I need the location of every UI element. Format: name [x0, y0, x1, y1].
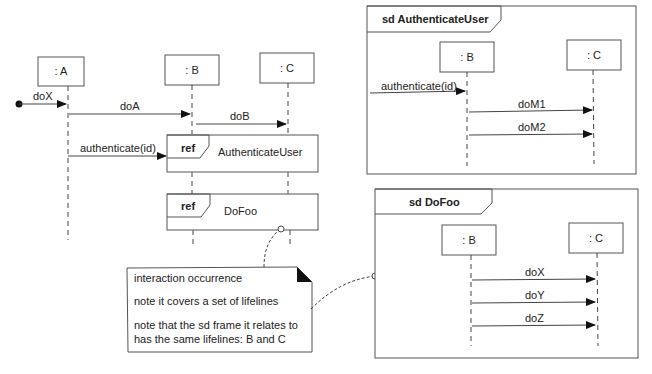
frame-sd-authenticate-user[interactable]: sd AuthenticateUser : B : C authenticate… [367, 6, 636, 174]
lifeline-b-label: : B [185, 64, 198, 76]
message-dob[interactable]: doB [196, 110, 286, 124]
ref-keyword: ref [181, 200, 195, 212]
frame1-message-authenticate-label: authenticate(id) [381, 80, 457, 92]
frame-authenticate-user-title: sd AuthenticateUser [382, 13, 489, 25]
frame-dofoo-title: sd DoFoo [409, 196, 460, 208]
frame1-lifeline-c-label: : C [587, 49, 601, 61]
ref-dofoo-name: DoFoo [224, 205, 257, 217]
frame1-lifeline-b-label: : B [460, 51, 473, 63]
message-dox[interactable]: doX [16, 90, 67, 108]
message-authenticate[interactable]: authenticate(id) [68, 142, 166, 156]
lifeline-a[interactable]: : A [38, 57, 84, 240]
ref-keyword: ref [181, 142, 195, 154]
frame1-message-dom1-label: doM1 [518, 98, 546, 110]
message-dob-label: doB [230, 110, 250, 122]
frame2-message-doz-label: doZ [525, 312, 544, 324]
note-to-frame-connector [311, 276, 375, 309]
sequence-diagram-canvas: : A : B : C doX doA [0, 0, 652, 374]
note[interactable]: interaction occurrence note it covers a … [127, 267, 312, 352]
connector-anchor-icon [278, 226, 284, 232]
frame2-lifeline-c-label: : C [589, 232, 603, 244]
message-doa-label: doA [120, 100, 140, 112]
frame1-message-dom2-label: doM2 [518, 121, 546, 133]
note-line-4: has the same lifelines: B and C [134, 333, 286, 345]
message-doa[interactable]: doA [69, 100, 190, 114]
message-dox-label: doX [33, 90, 53, 102]
frame2-lifeline-b-label: : B [462, 234, 475, 246]
frame2-message-doy-label: doY [525, 289, 545, 301]
frame-sd-dofoo[interactable]: sd DoFoo : B : C doX doY doZ [375, 189, 638, 358]
note-line-3: note that the sd frame it relates to [134, 319, 298, 331]
note-line-2: note it covers a set of lifelines [134, 295, 279, 307]
ref-authenticate-user-name: AuthenticateUser [218, 146, 303, 158]
ref-authenticate-user[interactable]: ref AuthenticateUser [167, 135, 318, 172]
note-line-1: interaction occurrence [134, 272, 242, 284]
frame2-message-dox-label: doX [525, 266, 545, 278]
lifeline-a-label: : A [55, 65, 69, 77]
lifeline-c-label: : C [280, 62, 294, 74]
note-folded-corner-icon [297, 267, 312, 282]
message-authenticate-label: authenticate(id) [80, 142, 156, 154]
note-to-ref-connector [264, 229, 280, 267]
ref-dofoo[interactable]: ref DoFoo [167, 194, 318, 230]
main-diagram: : A : B : C doX doA [16, 53, 319, 246]
